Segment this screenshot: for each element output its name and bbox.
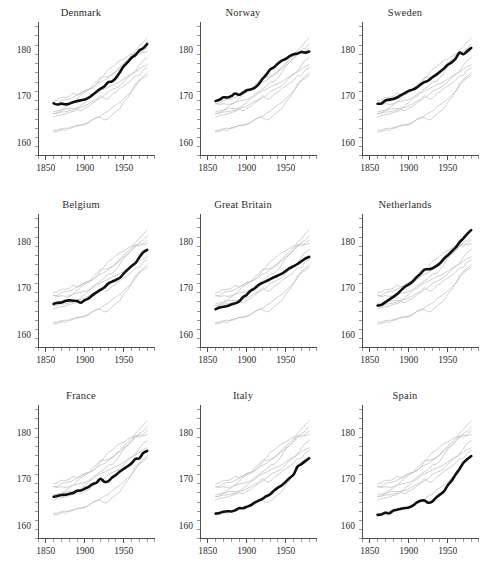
- panel-great-britain: Great Britain 160170180185019001950: [162, 192, 324, 384]
- axes: 160170180185019001950: [179, 22, 317, 173]
- plot-norway: 160170180185019001950: [162, 0, 324, 192]
- axes: 160170180185019001950: [341, 22, 479, 173]
- y-tick-label: 160: [17, 329, 31, 339]
- x-tick-label: 1850: [36, 163, 55, 173]
- series-line-background: [54, 421, 148, 496]
- plot-denmark: 160170180185019001950: [0, 0, 162, 192]
- x-tick-label: 1950: [438, 355, 457, 365]
- series-line-background: [216, 240, 310, 296]
- series-line-background: [378, 441, 472, 495]
- axes: 160170180185019001950: [341, 214, 479, 365]
- series-line-background: [378, 52, 472, 101]
- series-line-background: [378, 249, 472, 303]
- plot-belgium: 160170180185019001950: [0, 192, 162, 384]
- y-tick-label: 160: [179, 329, 193, 339]
- plot-france: 160170180185019001950: [0, 383, 162, 575]
- x-tick-label: 1900: [237, 355, 256, 365]
- series-line-background: [216, 441, 310, 495]
- plot-great-britain: 160170180185019001950: [162, 192, 324, 384]
- series-line-background: [216, 58, 310, 112]
- x-tick-label: 1850: [360, 546, 379, 556]
- x-tick-label: 1900: [237, 546, 256, 556]
- y-tick-label: 180: [17, 237, 31, 247]
- x-tick-label: 1950: [438, 546, 457, 556]
- series-line-focus: [216, 257, 310, 309]
- x-tick-label: 1950: [114, 163, 133, 173]
- series-line-background: [54, 458, 148, 513]
- axes: 160170180185019001950: [17, 405, 155, 556]
- y-tick-label: 160: [341, 329, 355, 339]
- series-line-background: [378, 38, 472, 113]
- y-tick-label: 170: [341, 283, 355, 293]
- background-series: [54, 230, 148, 324]
- background-series: [54, 38, 148, 132]
- x-tick-label: 1850: [360, 355, 379, 365]
- axes: 160170180185019001950: [17, 22, 155, 173]
- background-series: [216, 230, 310, 324]
- series-line-background: [216, 435, 310, 484]
- x-tick-label: 1950: [114, 546, 133, 556]
- series-line-background: [54, 435, 148, 484]
- figure-small-multiples: Denmark 160170180185019001950 Norway 160…: [0, 0, 486, 575]
- series-line-background: [378, 431, 472, 487]
- plot-spain: 160170180185019001950: [324, 383, 486, 575]
- x-tick-label: 1950: [438, 163, 457, 173]
- series-line-background: [216, 75, 310, 130]
- background-series: [54, 421, 148, 515]
- panel-italy: Italy 160170180185019001950: [162, 383, 324, 575]
- x-tick-label: 1950: [114, 355, 133, 365]
- panel-grid: Denmark 160170180185019001950 Norway 160…: [0, 0, 486, 575]
- panel-belgium: Belgium 160170180185019001950: [0, 192, 162, 384]
- y-tick-label: 180: [17, 45, 31, 55]
- axes: 160170180185019001950: [17, 214, 155, 365]
- x-tick-label: 1850: [36, 546, 55, 556]
- plot-sweden: 160170180185019001950: [324, 0, 486, 192]
- x-tick-label: 1850: [198, 546, 217, 556]
- x-tick-label: 1950: [276, 546, 295, 556]
- series-line-background: [216, 38, 310, 113]
- series-line-background: [378, 421, 472, 496]
- series-line-background: [378, 267, 472, 322]
- panel-france: France 160170180185019001950: [0, 383, 162, 575]
- x-tick-label: 1900: [399, 355, 418, 365]
- panel-spain: Spain 160170180185019001950: [324, 383, 486, 575]
- x-tick-label: 1850: [198, 355, 217, 365]
- series-line-background: [54, 52, 148, 101]
- x-tick-label: 1950: [276, 355, 295, 365]
- series-line-background: [54, 38, 148, 113]
- y-tick-label: 170: [17, 91, 31, 101]
- series-line-background: [54, 230, 148, 305]
- x-tick-label: 1850: [360, 163, 379, 173]
- plot-netherlands: 160170180185019001950: [324, 192, 486, 384]
- series-line-background: [216, 249, 310, 303]
- series-line-focus: [378, 48, 472, 104]
- series-line-background: [216, 48, 310, 104]
- x-tick-label: 1950: [276, 163, 295, 173]
- y-tick-label: 160: [341, 138, 355, 148]
- series-line-background: [216, 230, 310, 305]
- y-tick-label: 170: [179, 91, 193, 101]
- series-line-background: [54, 240, 148, 296]
- series-line-focus: [216, 458, 310, 513]
- x-tick-label: 1900: [237, 163, 256, 173]
- series-line-background: [378, 240, 472, 296]
- series-line-focus: [216, 52, 310, 101]
- axes: 160170180185019001950: [341, 405, 479, 556]
- series-line-background: [216, 243, 310, 292]
- background-series: [216, 421, 310, 515]
- panel-sweden: Sweden 160170180185019001950: [324, 0, 486, 192]
- panel-denmark: Denmark 160170180185019001950: [0, 0, 162, 192]
- y-tick-label: 160: [17, 521, 31, 531]
- y-tick-label: 180: [179, 45, 193, 55]
- y-tick-label: 170: [179, 475, 193, 485]
- series-line-background: [378, 435, 472, 484]
- y-tick-label: 170: [179, 283, 193, 293]
- y-tick-label: 170: [341, 91, 355, 101]
- y-tick-label: 170: [17, 475, 31, 485]
- background-series: [378, 236, 472, 324]
- y-tick-label: 160: [179, 521, 193, 531]
- series-line-background: [378, 58, 472, 112]
- x-tick-label: 1850: [198, 163, 217, 173]
- series-line-background: [54, 243, 148, 292]
- series-line-background: [216, 267, 310, 322]
